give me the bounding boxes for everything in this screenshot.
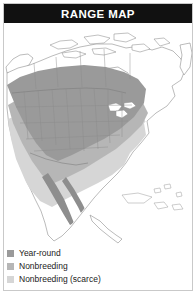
nonbreeding-swatch (7, 263, 14, 270)
year-round-swatch (7, 250, 14, 257)
legend-item-nonbreeding: Nonbreeding (4, 260, 192, 273)
map-legend: Year-round Nonbreeding Nonbreeding (scar… (4, 247, 192, 288)
page-title: RANGE MAP (61, 8, 135, 20)
north-america-map (4, 23, 192, 245)
legend-item-year-round: Year-round (4, 247, 192, 260)
range-map-header: RANGE MAP (4, 4, 192, 23)
legend-label-year-round: Year-round (19, 247, 61, 260)
nonbreeding-scarce-swatch (7, 276, 14, 283)
legend-label-nonbreeding: Nonbreeding (19, 260, 68, 273)
range-map-card: RANGE MAP (0, 0, 196, 296)
legend-item-nonbreeding-scarce: Nonbreeding (scarce) (4, 273, 192, 286)
legend-label-nonbreeding-scarce: Nonbreeding (scarce) (19, 273, 101, 286)
map-svg (4, 23, 192, 245)
